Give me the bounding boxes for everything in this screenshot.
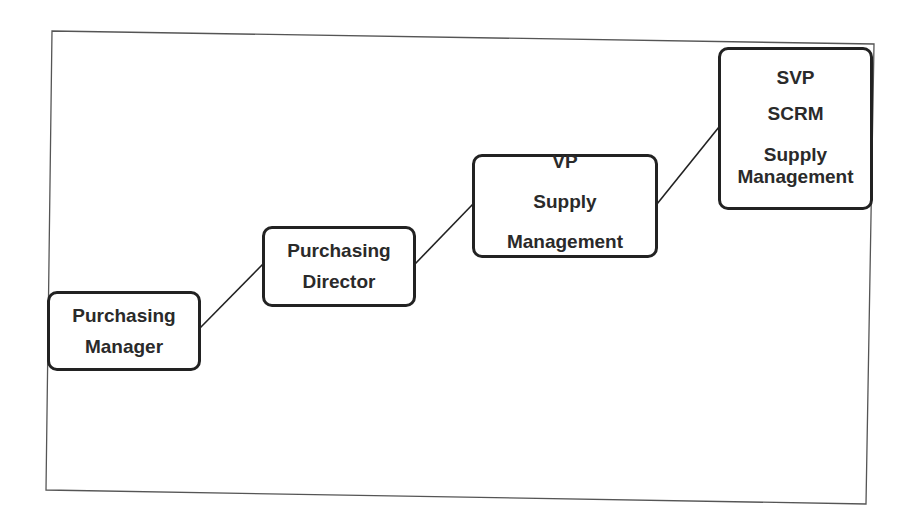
- node-label-line: VP: [552, 151, 577, 173]
- node-label-line: Supply: [533, 191, 596, 213]
- node-label-line: Manager: [85, 336, 163, 358]
- node-label-line: Management: [507, 231, 623, 253]
- node-purchasing-director: Purchasing Director: [262, 226, 416, 307]
- node-svp-scrm-supply-management: SVP SCRM Supply Management: [718, 47, 873, 210]
- node-label-line: SCRM: [768, 103, 824, 125]
- node-label-line: Supply: [764, 144, 827, 166]
- node-vp-supply-management: VP Supply Management: [472, 154, 658, 258]
- node-label-line: Purchasing: [287, 240, 390, 262]
- node-purchasing-manager: Purchasing Manager: [47, 291, 201, 371]
- connector-manager-to-director: [200, 264, 263, 328]
- connector-vp-to-svp: [657, 127, 719, 204]
- node-label-line: Purchasing: [72, 305, 175, 327]
- node-label-line: Director: [303, 271, 376, 293]
- connector-director-to-vp: [415, 204, 473, 264]
- node-label-line: Management: [737, 166, 853, 188]
- node-label-line: SVP: [776, 67, 814, 89]
- career-path-diagram: Purchasing Manager Purchasing Director V…: [0, 0, 913, 525]
